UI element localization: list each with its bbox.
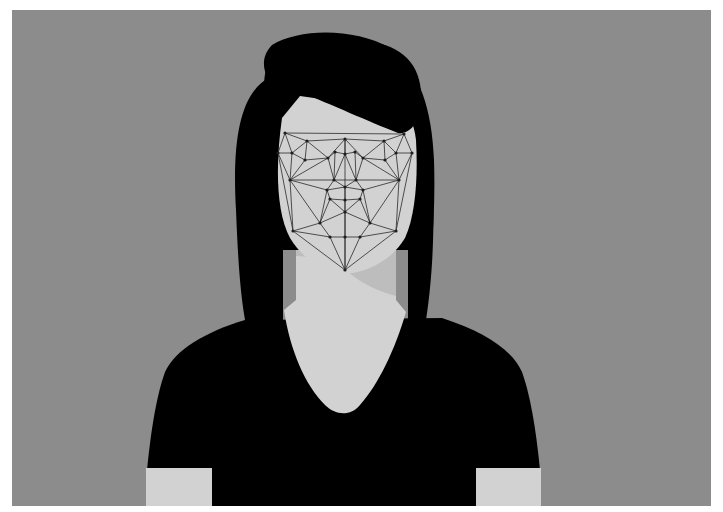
mesh-node	[368, 221, 371, 224]
mesh-node	[291, 229, 294, 232]
mesh-node	[326, 156, 329, 159]
left-arm	[146, 468, 212, 506]
mesh-node	[343, 268, 346, 271]
mesh-node	[332, 178, 335, 181]
mesh-node	[358, 235, 361, 238]
mesh-node	[283, 131, 286, 134]
mesh-node	[333, 150, 336, 153]
illustration-scene	[0, 0, 723, 512]
mesh-node	[328, 197, 331, 200]
mesh-node	[343, 198, 346, 201]
mesh-node	[361, 188, 364, 191]
mesh-node	[328, 235, 331, 238]
mesh-node	[397, 178, 400, 181]
mesh-node	[394, 151, 397, 154]
right-arm	[476, 468, 541, 506]
mesh-node	[358, 197, 361, 200]
mesh-node	[325, 188, 328, 191]
mesh-node	[343, 235, 346, 238]
mesh-node	[402, 132, 405, 135]
mesh-node	[353, 150, 356, 153]
mesh-node	[394, 229, 397, 232]
mesh-node	[383, 158, 386, 161]
mesh-node	[276, 151, 279, 154]
mesh-node	[382, 139, 385, 142]
mesh-node	[305, 139, 308, 142]
mesh-node	[343, 152, 346, 155]
mesh-node	[410, 151, 413, 154]
mesh-node	[290, 151, 293, 154]
mesh-node	[343, 210, 346, 213]
mesh-node	[343, 137, 346, 140]
mesh-node	[318, 221, 321, 224]
mesh-node	[303, 158, 306, 161]
mesh-node	[361, 156, 364, 159]
mesh-node	[343, 185, 346, 188]
mesh-node	[288, 178, 291, 181]
mesh-node	[354, 178, 357, 181]
